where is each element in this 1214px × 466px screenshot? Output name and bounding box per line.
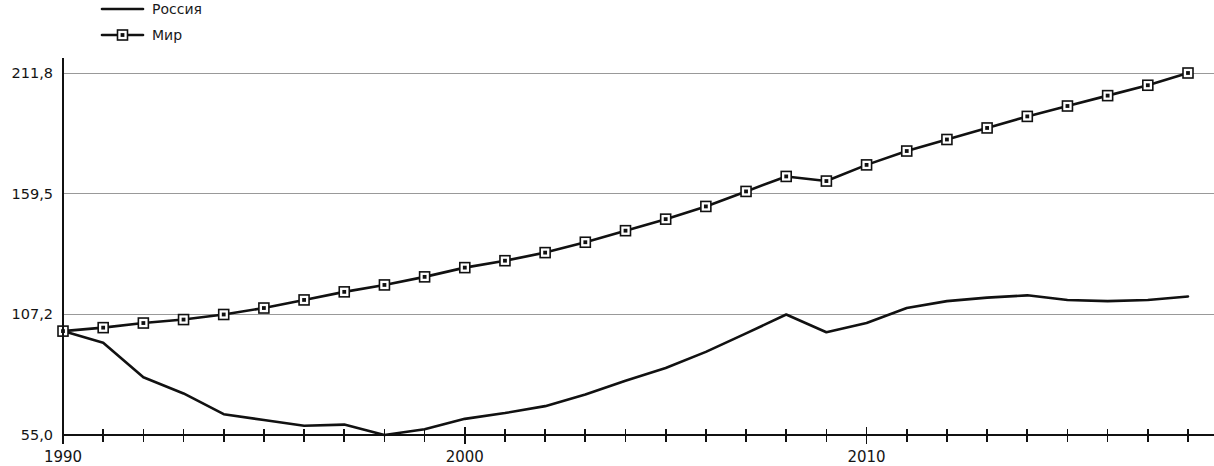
data-point-marker-core <box>624 229 628 233</box>
data-point-marker-core <box>1146 83 1150 87</box>
data-point-marker-core <box>865 163 869 167</box>
data-point-marker-core <box>945 138 949 142</box>
y-tick-label: 211,8 <box>11 65 53 81</box>
x-tick-label-1990: 1990 <box>44 448 82 466</box>
y-tick-labels-group: 55,0107,2159,5211,8 <box>11 65 53 443</box>
y-tick-label: 55,0 <box>21 427 53 443</box>
x-tick-label-2000: 2000 <box>446 448 484 466</box>
data-point-marker-core <box>262 306 266 310</box>
series-path <box>63 73 1188 331</box>
legend-item-world[interactable]: Мир <box>102 27 182 43</box>
data-point-marker-core <box>342 290 346 294</box>
y-tick-label: 159,5 <box>11 186 53 202</box>
x-tick-labels-group: 199020002010 <box>44 448 886 466</box>
data-point-marker-core <box>583 240 587 244</box>
data-point-marker-core <box>383 283 387 287</box>
data-point-marker-core <box>744 190 748 194</box>
data-point-marker-core <box>784 175 788 179</box>
series-group <box>58 68 1193 435</box>
axis-group <box>63 58 1214 435</box>
data-point-marker-core <box>664 217 668 221</box>
legend-label: Россия <box>152 1 202 17</box>
x-tick-label-2010: 2010 <box>847 448 885 466</box>
legend-label: Мир <box>152 27 182 43</box>
data-point-marker-core <box>704 205 708 209</box>
chart-figure: 55,0107,2159,5211,8 199020002010 РоссияМ… <box>0 0 1214 466</box>
legend-square-marker-core <box>121 33 125 37</box>
data-point-marker-core <box>824 179 828 183</box>
gridlines-group <box>63 73 1214 314</box>
legend: РоссияМир <box>102 1 202 43</box>
chart-svg: 55,0107,2159,5211,8 199020002010 РоссияМ… <box>0 0 1214 466</box>
data-point-marker-core <box>1025 115 1029 119</box>
data-point-marker-core <box>985 126 989 130</box>
data-point-marker-core <box>1106 94 1110 98</box>
data-point-marker-core <box>101 326 105 330</box>
data-point-marker-core <box>905 149 909 153</box>
y-tick-label: 107,2 <box>11 306 53 322</box>
data-point-marker-core <box>141 321 145 325</box>
series-russia <box>63 295 1188 435</box>
data-point-marker-core <box>423 275 427 279</box>
data-point-marker-core <box>1066 104 1070 108</box>
data-point-marker-core <box>302 298 306 302</box>
series-path <box>63 295 1188 435</box>
legend-item-russia[interactable]: Россия <box>102 1 202 17</box>
data-point-marker-core <box>1186 71 1190 75</box>
data-point-marker-core <box>503 259 507 263</box>
data-point-marker-core <box>222 313 226 317</box>
data-point-marker-core <box>463 266 467 270</box>
data-point-marker-core <box>543 251 547 255</box>
data-point-marker-core <box>182 318 186 322</box>
